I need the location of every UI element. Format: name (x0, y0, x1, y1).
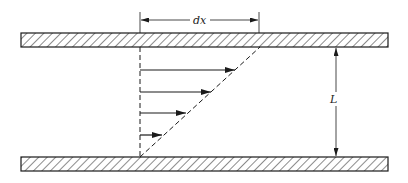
L-label: L (329, 93, 337, 106)
couette-flow-diagram: dx L (0, 0, 408, 183)
velocity-profile (140, 47, 260, 157)
profile-envelope-dashed (140, 47, 260, 157)
dx-label: dx (193, 14, 207, 27)
dx-dimension: dx (140, 12, 259, 33)
L-dimension: L (329, 48, 337, 156)
top-plate (21, 33, 388, 47)
bottom-plate (21, 157, 388, 171)
